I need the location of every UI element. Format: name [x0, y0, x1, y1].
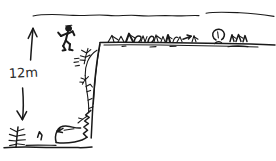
horizon-line [33, 12, 274, 16]
sketch-canvas: 12m [0, 0, 276, 161]
base-ground-line [4, 145, 92, 148]
height-arrow-down [17, 88, 27, 120]
round-bush [213, 29, 225, 43]
stick-figure [58, 25, 74, 50]
height-label-text: 12m [8, 64, 38, 81]
base-rocks [38, 110, 91, 143]
sketch-drawing: 12m [0, 0, 276, 161]
height-arrow-up [28, 28, 37, 60]
height-label: 12m [8, 64, 38, 81]
plateau-grass-right [228, 34, 248, 46]
base-shrub [9, 127, 25, 147]
